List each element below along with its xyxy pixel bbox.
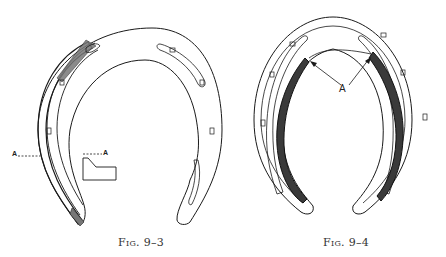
section-marker-left: A	[12, 150, 17, 157]
figure-9-4: A Fig. 9–4	[223, 0, 446, 257]
pointer-label-a: A	[339, 83, 346, 94]
section-marker-right: A	[103, 149, 108, 156]
figure-9-3: A A Fig. 9–3	[0, 0, 223, 257]
horseshoe-diagram-9-4	[223, 0, 446, 257]
figure-caption: Fig. 9–4	[323, 236, 369, 249]
figure-caption: Fig. 9–3	[118, 236, 164, 249]
horseshoe-diagram-9-3	[0, 0, 223, 257]
